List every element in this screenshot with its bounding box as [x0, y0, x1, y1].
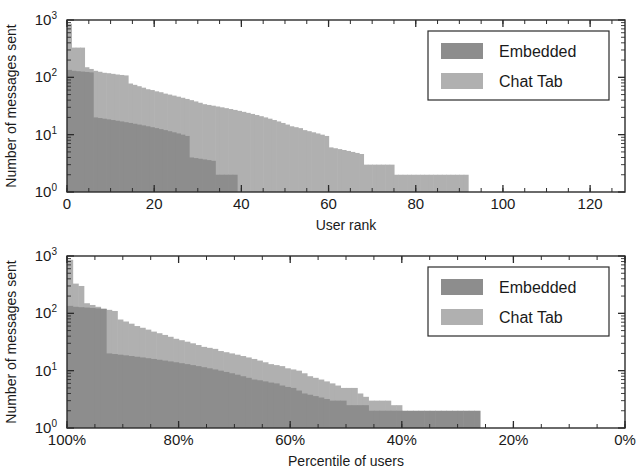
chart-svg-percentile: 100%80%60%40%20%0%100101102103Percentile… [0, 236, 642, 472]
bar [385, 165, 390, 192]
bar [372, 165, 377, 192]
bar [262, 381, 268, 428]
bar [207, 368, 213, 428]
bar [141, 125, 146, 192]
bar [272, 120, 277, 192]
bar [446, 411, 452, 428]
bar [207, 160, 212, 192]
bar [201, 367, 207, 428]
bar [363, 165, 368, 192]
bar [318, 398, 324, 428]
bar [458, 411, 464, 428]
x-tick-label: 100% [48, 431, 86, 448]
y-tick-label: 101 [35, 125, 58, 143]
bar [106, 119, 111, 192]
bar [111, 120, 116, 192]
bar [320, 135, 325, 192]
bar [80, 72, 85, 192]
bar [71, 71, 76, 192]
bar [459, 175, 464, 192]
bar [420, 175, 425, 192]
y-tick-label: 101 [35, 361, 58, 379]
bar [159, 129, 164, 192]
bar [346, 151, 351, 192]
bar [119, 121, 124, 192]
bar [145, 126, 150, 192]
bar [451, 175, 456, 192]
legend-swatch [441, 73, 483, 89]
legend-swatch [441, 43, 483, 59]
bar [250, 114, 255, 192]
bar [263, 117, 268, 192]
bar [294, 127, 299, 192]
bar [84, 308, 90, 428]
bar [377, 165, 382, 192]
bar [241, 112, 246, 192]
bar [211, 161, 216, 192]
bar [240, 376, 246, 428]
bar [128, 123, 133, 192]
bar [307, 131, 312, 192]
bar [257, 380, 263, 428]
bar [359, 154, 364, 192]
bar [140, 357, 146, 428]
bar [180, 135, 185, 192]
bar [268, 119, 273, 192]
bar [184, 364, 190, 428]
bar [368, 165, 373, 192]
bar [268, 383, 274, 428]
bar [329, 401, 335, 428]
bar [228, 175, 233, 192]
bar [391, 411, 397, 428]
bar [154, 128, 159, 192]
x-tick-label: 20% [498, 431, 528, 448]
bar [441, 411, 447, 428]
bar [189, 157, 194, 192]
bar [102, 119, 107, 192]
bar [193, 158, 198, 192]
bar [429, 175, 434, 192]
bar [329, 147, 334, 192]
bar [435, 411, 441, 428]
bar [273, 383, 279, 428]
bar [78, 307, 84, 428]
bar [150, 127, 155, 192]
bar [67, 70, 72, 192]
legend-swatch [441, 309, 483, 325]
x-axis-title: Percentile of users [288, 453, 404, 469]
bar [374, 411, 380, 428]
bar [172, 132, 177, 192]
bar [419, 411, 425, 428]
chart-svg-user-rank: 020406080100120100101102103User rankNumb… [0, 0, 642, 236]
bar [195, 366, 201, 428]
bar [176, 133, 181, 192]
y-tick-label: 103 [35, 246, 58, 264]
chart-panel-user-rank: 020406080100120100101102103User rankNumb… [0, 0, 642, 236]
bar [352, 405, 358, 428]
bar [224, 175, 229, 192]
bar [173, 362, 179, 428]
bar [134, 357, 140, 428]
bar [229, 373, 235, 428]
bar [237, 111, 242, 192]
bar [424, 175, 429, 192]
legend-label: Chat Tab [499, 309, 563, 326]
bar [394, 175, 399, 192]
bar [76, 71, 81, 192]
bar [162, 361, 168, 428]
bar [402, 411, 408, 428]
bar [289, 126, 294, 192]
bar [185, 136, 190, 192]
legend: EmbeddedChat Tab [428, 31, 609, 100]
bar [398, 175, 403, 192]
bar [357, 405, 363, 428]
bar [340, 401, 346, 428]
bar [212, 369, 218, 428]
bar [276, 121, 281, 192]
bar [355, 153, 360, 192]
x-tick-label: 80% [164, 431, 194, 448]
x-tick-label: 120 [578, 195, 603, 212]
bar [279, 386, 285, 428]
bar [469, 411, 475, 428]
y-tick-label: 102 [35, 303, 58, 321]
